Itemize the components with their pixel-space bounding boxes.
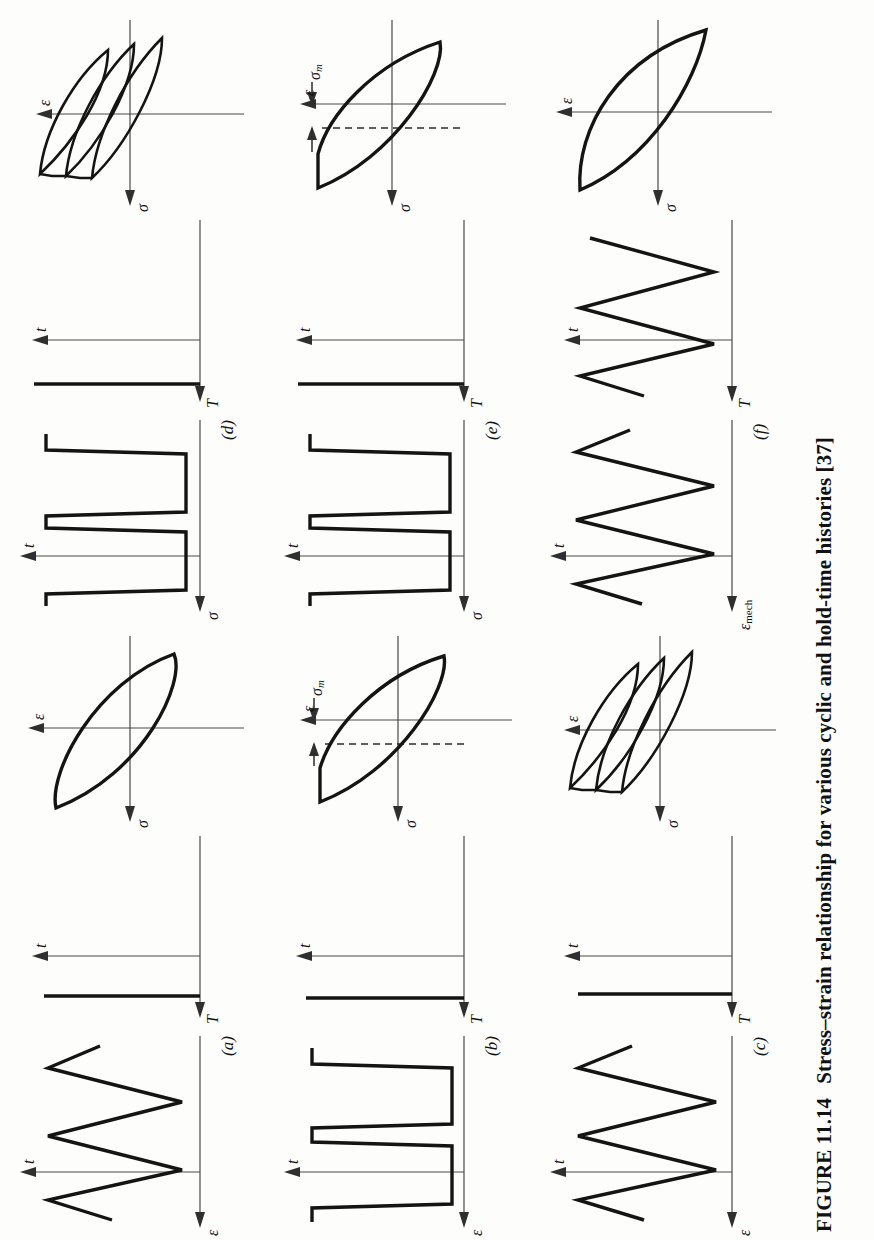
panel-b-strain-axis-label: ε <box>468 1230 486 1236</box>
panel-a-time-axis-label: t <box>32 944 50 948</box>
panel-f-hysteresis-plot: ε σ <box>532 16 788 216</box>
panel-d-stress-axis-label: σ <box>204 612 222 620</box>
panel-e-time-axis-label: t <box>296 328 314 332</box>
panel-b-mean-stress-label: σm <box>308 680 326 696</box>
panel-b-temperature-time-plot: t T <box>268 832 520 1032</box>
panel-c-temperature-time-plot: t T <box>532 832 788 1032</box>
panel-b-strain-axis-label: ε <box>300 706 318 712</box>
panel-e-time-axis-label: t <box>284 544 302 548</box>
panel-a-strain-axis-label: ε <box>204 1230 222 1236</box>
panel-c-time-axis-label: t <box>564 944 582 948</box>
panel-f-temperature-time-plot: t T <box>532 216 788 416</box>
panel-c-time-axis-label: t <box>550 1160 568 1164</box>
panel-d-label: (d) <box>218 420 238 440</box>
panel-b-strain-time-plot: t ε <box>268 1032 520 1232</box>
panel-b: t ε t T <box>268 632 520 1232</box>
panel-e-mean-stress-label: σm <box>306 64 324 80</box>
panel-c-temperature-axis-label: T <box>736 1015 754 1024</box>
panel-a: t ε t T <box>4 632 256 1232</box>
panel-e-strain-axis-label: ε <box>300 90 318 96</box>
panel-a-temperature-time-plot: t T <box>4 832 256 1032</box>
panel-d-time-axis-label: t <box>20 544 38 548</box>
panel-e-stress-axis-label: σ <box>468 612 486 620</box>
panel-f-stress-axis-label: σ <box>662 204 680 212</box>
panel-c-label: (c) <box>750 1037 770 1056</box>
panel-c-hysteresis-plot: ε σ <box>532 632 788 832</box>
panel-f-time-axis-label: t <box>550 544 568 548</box>
panel-d-strain-axis-label: ε <box>36 100 54 106</box>
panel-d-stress-axis-label: σ <box>134 204 152 212</box>
panel-b-temperature-axis-label: T <box>468 1015 486 1024</box>
panel-f-time-axis-label: t <box>564 328 582 332</box>
panel-c-strain-axis-label: ε <box>736 1230 754 1236</box>
panel-c-strain-time-plot: t ε <box>532 1032 788 1232</box>
panel-b-stress-axis-label: σ <box>402 820 420 828</box>
panel-a-stress-axis-label: σ <box>134 820 152 828</box>
panel-a-hysteresis-plot: ε σ <box>4 632 256 832</box>
panel-e-temperature-axis-label: T <box>468 399 486 408</box>
panel-d-temperature-axis-label: T <box>204 399 222 408</box>
figure-number: FIGURE 11.14 <box>812 1098 836 1232</box>
figure-caption: FIGURE 11.14Stress–strain relationship f… <box>812 0 837 1240</box>
figure-caption-text: Stress–strain relationship for various c… <box>812 437 836 1084</box>
panel-a-temperature-axis-label: T <box>204 1015 222 1024</box>
panel-e-stress-axis-label: σ <box>396 204 414 212</box>
panel-e: t σ t T <box>268 16 520 616</box>
panel-a-time-axis-label: t <box>20 1160 38 1164</box>
panel-c-stress-axis-label: σ <box>664 820 682 828</box>
panel-a-strain-time-plot: t ε <box>4 1032 256 1232</box>
panel-d-time-axis-label: t <box>32 328 50 332</box>
panel-b-hysteresis-plot: ε σ σm <box>268 632 520 832</box>
panel-b-time-axis-label: t <box>296 944 314 948</box>
panel-e-hysteresis-plot: ε σ σm <box>268 16 520 216</box>
rotated-figure-body: t ε t T <box>0 0 874 1240</box>
panel-f-strain-axis-label: ε <box>558 98 576 104</box>
panel-f: t εmech t T <box>532 16 788 616</box>
panel-e-temperature-time-plot: t T <box>268 216 520 416</box>
figure-page: t ε t T <box>0 0 874 1240</box>
panel-d-strain-time-plot: t σ <box>4 416 256 616</box>
panel-c-strain-axis-label: ε <box>564 716 582 722</box>
panel-a-strain-axis-label: ε <box>30 714 48 720</box>
panel-b-label: (b) <box>482 1036 502 1056</box>
panel-f-strain-time-plot: t εmech <box>532 416 788 616</box>
panel-a-label: (a) <box>218 1036 238 1056</box>
panel-b-time-axis-label: t <box>284 1160 302 1164</box>
panel-f-temperature-axis-label: T <box>736 399 754 408</box>
panel-e-strain-time-plot: t σ <box>268 416 520 616</box>
panel-f-strain-mech-axis-label: εmech <box>736 600 754 630</box>
panel-f-label: (f) <box>750 424 770 440</box>
panel-d-temperature-time-plot: t T <box>4 216 256 416</box>
panel-d-hysteresis-plot: ε σ <box>4 16 256 216</box>
panel-grid: t ε t T <box>0 0 800 1240</box>
panel-d: t σ t T <box>4 16 256 616</box>
panel-e-label: (e) <box>482 421 502 440</box>
panel-c: t ε t T <box>532 632 788 1232</box>
